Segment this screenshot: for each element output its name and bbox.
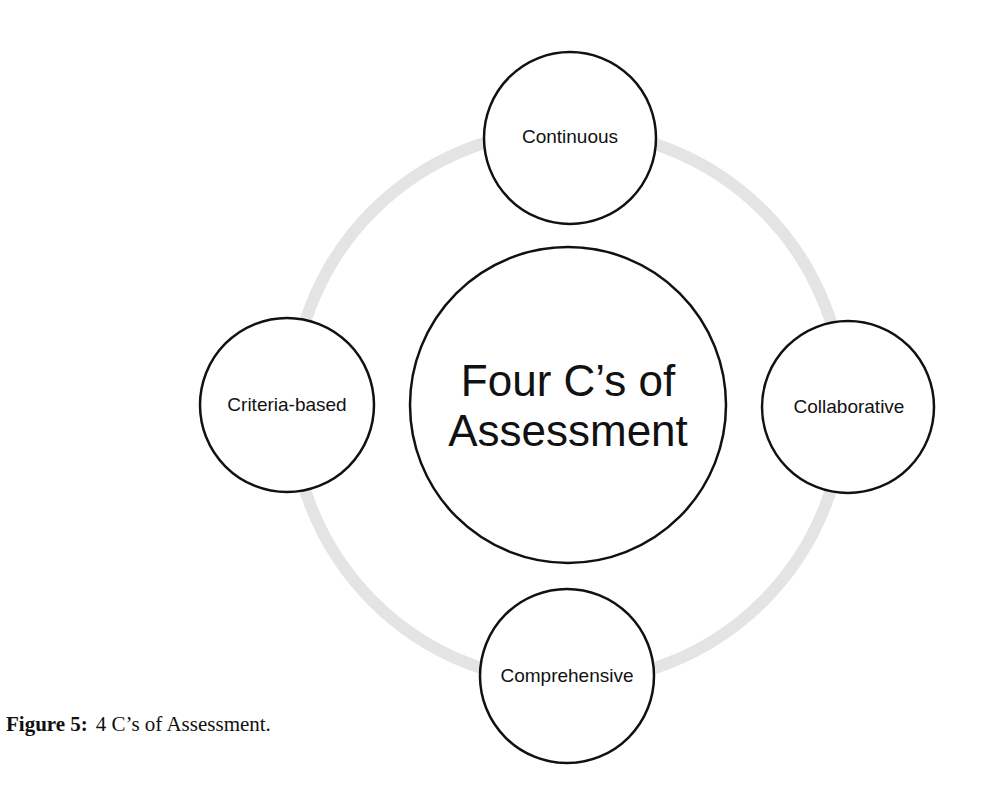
node-continuous: Continuous	[484, 52, 656, 224]
center-label-line1: Four C’s of	[461, 356, 676, 405]
center-label-line2: Assessment	[448, 406, 688, 455]
node-label-collaborative: Collaborative	[794, 396, 905, 417]
node-label-continuous: Continuous	[522, 126, 618, 147]
node-collaborative: Collaborative	[762, 321, 934, 493]
node-label-criteria-based: Criteria-based	[227, 394, 346, 415]
caption-text: 4 C’s of Assessment.	[96, 712, 271, 736]
center-node: Four C’s of Assessment	[410, 247, 726, 563]
node-label-comprehensive: Comprehensive	[500, 665, 633, 686]
figure-caption: Figure 5:4 C’s of Assessment.	[6, 712, 271, 737]
node-criteria-based: Criteria-based	[200, 318, 374, 492]
node-comprehensive: Comprehensive	[480, 589, 654, 763]
caption-label: Figure 5:	[6, 712, 88, 736]
four-cs-diagram: Four C’s of Assessment Continuous Collab…	[0, 0, 983, 804]
